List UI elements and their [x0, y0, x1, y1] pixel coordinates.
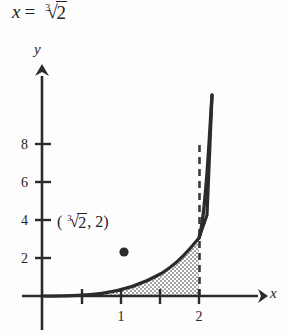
radicand-point: 2: [77, 213, 87, 231]
radicand: 2: [56, 1, 68, 23]
y-tick-label-4: 4: [12, 213, 28, 229]
equation-relation: =: [20, 1, 39, 22]
annotation-y-value: 2: [95, 213, 103, 230]
cube-root-radical-point: 3√2: [62, 213, 87, 230]
y-tick-label-8: 8: [12, 137, 28, 153]
x-axis-arrowhead: [258, 289, 268, 303]
point-annotation-label: (3√2, 2): [57, 213, 109, 230]
y-axis-arrowhead: [35, 64, 49, 76]
cube-root-radical: 3√2: [39, 2, 67, 21]
shaded-region-fill: [42, 240, 199, 297]
x-tick-label-2: 2: [191, 309, 207, 325]
equation-caption: x=3√2: [12, 2, 67, 21]
marked-point: [119, 247, 128, 256]
y-tick-label-6: 6: [12, 175, 28, 191]
plot-canvas: [0, 0, 289, 335]
paren-close: ): [103, 213, 108, 230]
x-axis-label: x: [270, 286, 277, 301]
y-tick-label-2: 2: [12, 251, 28, 267]
math-figure: x=3√2 y x 8 6 4 2 1 2 (3√2, 2): [0, 0, 289, 335]
x-tick-label-1: 1: [113, 309, 129, 325]
y-axis-label: y: [34, 42, 41, 57]
annotation-comma: ,: [87, 213, 91, 230]
